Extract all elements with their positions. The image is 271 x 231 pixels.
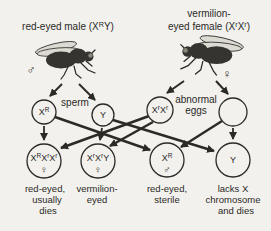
offspring-1-label-line3: dies: [39, 205, 57, 216]
diagram-canvas: red-eyed male (XRY) vermilion- eyed fema…: [0, 0, 271, 231]
arrow-female-to-xrxr: [167, 81, 184, 93]
offspring-3-label-line1: red-eyed,: [147, 183, 187, 194]
offspring-3-sex-symbol: ♂: [163, 164, 171, 175]
female-parent-title-line2: eyed female (XrXr): [168, 20, 250, 32]
offspring-1-sex-symbol: ♀: [40, 164, 48, 175]
abnormal-eggs-label-line2: eggs: [185, 105, 207, 116]
arrow-y-to-offspring2: [100, 128, 102, 140]
female-fly-illustration: [181, 33, 245, 75]
offspring-4-label-line3: and dies: [218, 205, 254, 216]
offspring-4-genotype: Y: [230, 155, 236, 165]
gamete-circle-empty-egg: [219, 98, 247, 126]
arrow-female-to-empty-egg: [216, 81, 228, 94]
sperm-label: sperm: [61, 97, 89, 108]
male-fly-illustration: [35, 39, 95, 79]
offspring-2-genotype: XrXrY: [87, 152, 109, 163]
genetics-cross-diagram: red-eyed male (XRY) vermilion- eyed fema…: [0, 0, 271, 231]
male-parent-title: red-eyed male (XRY): [22, 20, 114, 32]
offspring-4-label-line2: chromosome: [206, 194, 261, 205]
female-parent-title-line1: vermilion-: [187, 8, 230, 19]
male-symbol: ♂: [27, 63, 36, 77]
arrow-male-to-xR: [50, 84, 62, 96]
arrow-empty-egg-to-offspring3: [181, 121, 222, 147]
offspring-4-label-line1: lacks X: [218, 183, 249, 194]
abnormal-eggs-label-line1: abnormal: [175, 94, 217, 105]
offspring-2-label-line1: vermilion-: [76, 183, 117, 194]
offspring-1-genotype: XRXrXr: [30, 152, 58, 163]
offspring-2-label-line2: eyed: [87, 194, 108, 205]
gamete-y-genotype: Y: [100, 110, 106, 120]
offspring-3-label-line2: sterile: [154, 194, 179, 205]
offspring-1-label-line1: red-eyed,: [25, 183, 65, 194]
female-symbol: ♀: [223, 67, 232, 81]
offspring-1-label-line2: usually: [32, 194, 62, 205]
offspring-2-sex-symbol: ♀: [94, 164, 102, 175]
